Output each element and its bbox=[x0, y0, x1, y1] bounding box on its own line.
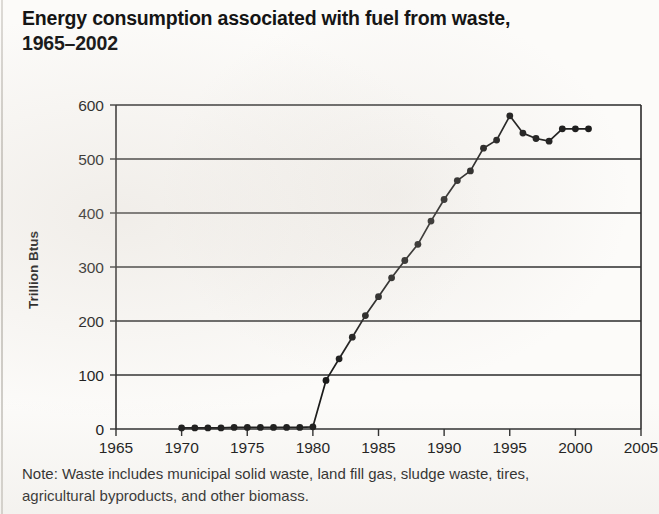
y-axis-label: Trillion Btus bbox=[26, 231, 41, 309]
svg-text:2000: 2000 bbox=[558, 439, 593, 456]
chart-note-line-2: agricultural byproducts, and other bioma… bbox=[22, 485, 642, 507]
svg-text:2005: 2005 bbox=[624, 439, 658, 456]
svg-text:1980: 1980 bbox=[296, 439, 331, 456]
svg-text:600: 600 bbox=[78, 97, 104, 114]
svg-text:100: 100 bbox=[78, 367, 104, 384]
svg-text:0: 0 bbox=[95, 421, 104, 438]
line-chart: 0100200300400500600 19651970197519801985… bbox=[0, 0, 659, 514]
svg-text:1970: 1970 bbox=[164, 439, 199, 456]
svg-text:500: 500 bbox=[78, 151, 104, 168]
data-series bbox=[178, 112, 592, 431]
gridlines bbox=[116, 105, 641, 375]
y-axis-ticks: 0100200300400500600 bbox=[78, 97, 116, 438]
svg-text:400: 400 bbox=[78, 205, 104, 222]
svg-text:1990: 1990 bbox=[427, 439, 462, 456]
chart-note-line-1: Note: Waste includes municipal solid was… bbox=[22, 463, 642, 485]
chart-note: Note: Waste includes municipal solid was… bbox=[22, 463, 642, 507]
x-axis-ticks: 196519701975198019851990199520002005 bbox=[99, 429, 658, 456]
svg-text:1985: 1985 bbox=[361, 439, 395, 456]
svg-text:300: 300 bbox=[78, 259, 104, 276]
svg-text:1975: 1975 bbox=[230, 439, 264, 456]
svg-text:1965: 1965 bbox=[99, 439, 133, 456]
svg-text:1995: 1995 bbox=[493, 439, 527, 456]
svg-text:200: 200 bbox=[78, 313, 104, 330]
